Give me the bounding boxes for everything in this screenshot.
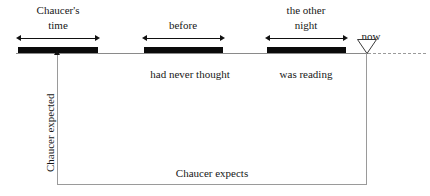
box-left-edge — [57, 55, 58, 184]
interval-label-the-other-night-line2: night — [295, 19, 318, 32]
arrow-head-right-icon — [220, 35, 225, 41]
event-label-had-never-thought: had never thought — [150, 68, 229, 81]
interval-label-before: before — [169, 19, 197, 32]
box-right-edge — [366, 53, 367, 184]
interval-label-chaucers-time-line1: Chaucer's — [37, 4, 80, 17]
span-arrow-the-other-night — [265, 34, 348, 43]
arrow-shaft — [146, 38, 221, 39]
arrow-head-right-icon — [95, 35, 100, 41]
span-arrow-chaucers-time — [16, 34, 100, 43]
span-arrow-before — [142, 34, 225, 43]
box-caption-chaucer-expects: Chaucer expects — [176, 167, 248, 180]
arrow-head-right-icon — [343, 35, 348, 41]
now-marker-triangle-icon — [356, 38, 378, 55]
interval-label-chaucers-time-line2: time — [48, 19, 68, 32]
event-label-was-reading: was reading — [280, 68, 333, 81]
arrow-shaft — [269, 38, 344, 39]
arrow-shaft — [20, 38, 96, 39]
timeline-diagram: Chaucer's time before had never thought … — [0, 0, 430, 196]
vertical-axis-label: Chaucer expected — [44, 94, 56, 172]
interval-label-the-other-night-line1: the other — [287, 4, 326, 17]
timeline-axis — [16, 53, 368, 54]
box-bottom-edge — [57, 184, 367, 185]
